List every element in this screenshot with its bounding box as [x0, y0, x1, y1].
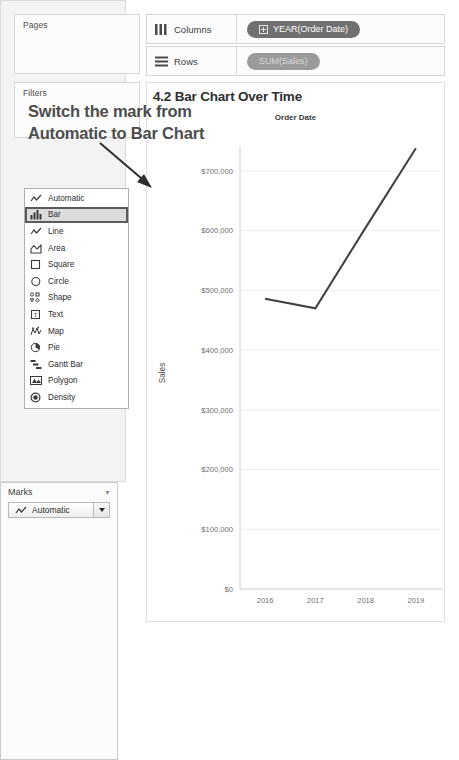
- pill-year-order-date-label: YEAR(Order Date): [273, 24, 348, 34]
- marks-card-header: Marks ▼: [1, 483, 117, 500]
- mark-option-label: Automatic: [48, 194, 84, 203]
- svg-text:T: T: [34, 311, 38, 318]
- mark-option-label: Text: [48, 310, 63, 319]
- polygon-mark-icon: [30, 375, 42, 386]
- mark-option-label: Bar: [48, 210, 61, 219]
- y-tick-label: $500,000: [201, 286, 233, 295]
- pages-card[interactable]: Pages: [14, 14, 140, 74]
- expand-plus-icon[interactable]: [259, 25, 268, 34]
- pie-mark-icon: [30, 342, 42, 353]
- y-tick-label: $200,000: [201, 465, 233, 474]
- filters-card[interactable]: Filters: [14, 82, 140, 138]
- mark-option-circle[interactable]: Circle: [25, 273, 128, 290]
- columns-shelf-label: Columns: [174, 24, 232, 35]
- pages-card-title: Pages: [15, 15, 139, 30]
- pill-sum-sales-label: SUM(Sales): [259, 56, 308, 66]
- chevron-down-icon[interactable]: [93, 503, 109, 517]
- bar-mark-icon: [30, 209, 42, 220]
- text-mark-icon: T: [30, 309, 42, 320]
- shelf-divider: [236, 15, 237, 43]
- map-mark-icon: [30, 326, 42, 337]
- mark-option-bar[interactable]: Bar: [25, 207, 128, 224]
- y-tick-label: $600,000: [201, 226, 233, 235]
- sales-series-line: [265, 148, 416, 308]
- mark-type-select[interactable]: Automatic: [8, 502, 110, 518]
- mark-option-automatic[interactable]: Automatic: [25, 190, 128, 207]
- mark-option-label: Shape: [48, 293, 72, 302]
- mark-option-label: Area: [48, 244, 65, 253]
- shelf-divider: [236, 47, 237, 75]
- pill-sum-sales[interactable]: SUM(Sales): [247, 53, 320, 70]
- mark-option-area[interactable]: Area: [25, 240, 128, 257]
- density-mark-icon: [30, 392, 42, 403]
- mark-type-dropdown-list[interactable]: AutomaticBarLineAreaSquareCircleShapeTTe…: [24, 188, 129, 409]
- y-tick-label: $700,000: [201, 167, 233, 176]
- mark-option-pie[interactable]: Pie: [25, 339, 128, 356]
- x-tick-label: 2016: [257, 596, 274, 605]
- pill-year-order-date[interactable]: YEAR(Order Date): [247, 21, 360, 38]
- line-mark-icon: [30, 226, 42, 237]
- columns-grid-icon: [155, 24, 168, 35]
- x-tick-label: 2019: [407, 596, 424, 605]
- mark-option-label: Gantt Bar: [48, 360, 83, 369]
- area-mark-icon: [30, 243, 42, 254]
- line-mark-icon: [15, 505, 27, 516]
- square-mark-icon: [30, 259, 42, 270]
- line-mark-icon: [30, 193, 42, 204]
- x-tick-label: 2018: [357, 596, 374, 605]
- shape-mark-icon: [30, 292, 42, 303]
- mark-option-label: Density: [48, 393, 75, 402]
- mark-option-density[interactable]: Density: [25, 389, 128, 406]
- mark-option-gantt-bar[interactable]: Gantt Bar: [25, 356, 128, 373]
- mark-option-label: Square: [48, 260, 74, 269]
- chart-x-tick-labels: 2016201720182019: [257, 596, 425, 605]
- mark-option-map[interactable]: Map: [25, 323, 128, 340]
- mark-option-label: Line: [48, 227, 63, 236]
- mark-option-text[interactable]: TText: [25, 306, 128, 323]
- mark-type-selected-label: Automatic: [32, 505, 70, 515]
- marks-card-title: Marks: [8, 487, 33, 497]
- circle-mark-icon: [30, 276, 42, 287]
- chart-gridlines: [240, 171, 441, 589]
- x-tick-label: 2017: [307, 596, 324, 605]
- mark-option-label: Map: [48, 327, 64, 336]
- filters-card-title: Filters: [15, 83, 139, 98]
- y-axis-title: Sales: [158, 363, 167, 383]
- rows-list-icon: [155, 56, 168, 67]
- mark-option-shape[interactable]: Shape: [25, 290, 128, 307]
- mark-option-line[interactable]: Line: [25, 223, 128, 240]
- rows-shelf[interactable]: Rows SUM(Sales): [146, 46, 445, 76]
- mark-option-label: Polygon: [48, 376, 78, 385]
- chart-y-tick-labels: $0$100,000$200,000$300,000$400,000$500,0…: [201, 167, 233, 594]
- y-tick-label: $400,000: [201, 346, 233, 355]
- mark-option-polygon[interactable]: Polygon: [25, 373, 128, 390]
- mark-option-square[interactable]: Square: [25, 256, 128, 273]
- visualization-pane: 4.2 Bar Chart Over Time Order Date $0$10…: [146, 82, 445, 622]
- y-tick-label: $300,000: [201, 406, 233, 415]
- rows-shelf-label: Rows: [174, 56, 232, 67]
- mark-option-label: Pie: [48, 343, 60, 352]
- y-tick-label: $0: [225, 585, 233, 594]
- columns-shelf[interactable]: Columns YEAR(Order Date): [146, 14, 445, 44]
- mark-option-label: Circle: [48, 277, 69, 286]
- caret-down-icon[interactable]: ▼: [104, 489, 111, 496]
- line-chart: $0$100,000$200,000$300,000$400,000$500,0…: [147, 83, 444, 621]
- y-tick-label: $100,000: [201, 525, 233, 534]
- gantt-mark-icon: [30, 359, 42, 370]
- marks-card[interactable]: Marks ▼ Automatic: [0, 482, 118, 760]
